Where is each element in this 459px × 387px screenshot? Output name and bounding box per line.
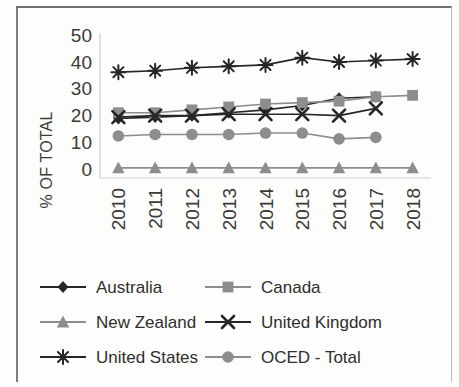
legend-label: OCED - Total [261,348,361,367]
line-chart: % OF TOTAL 50 40 30 20 10 0 201020112012… [0,0,459,387]
legend-item-united-kingdom[interactable]: United Kingdom [205,313,382,332]
data-point [222,59,236,73]
y-tick-label: 10 [71,132,92,153]
data-point [297,97,308,108]
legend-marker-square-icon [223,282,234,293]
data-point [260,99,271,110]
legend-label: Canada [261,278,321,297]
series-new-zealand [112,161,419,173]
data-point [185,61,199,75]
data-point [334,96,345,107]
data-point [260,127,272,139]
data-point [149,129,161,141]
x-tick-label: 2018 [403,188,424,230]
x-tick-label: 2015 [292,188,313,230]
chart-legend: AustraliaCanadaNew ZealandUnited Kingdom… [40,278,382,367]
legend-label: Australia [96,278,163,297]
legend-marker-circle-icon [222,351,234,363]
legend-label: United Kingdom [261,313,382,332]
y-tick-label: 20 [71,105,92,126]
data-point [186,129,198,141]
x-tick-label: 2012 [182,188,203,230]
y-tick-label: 50 [71,25,92,46]
x-tick-labels: 201020112012201320142015201620172018 [108,188,423,231]
series-united-states [111,51,419,80]
data-point [369,54,383,68]
x-tick-label: 2014 [256,188,277,231]
y-tick-label: 40 [71,52,92,73]
data-point [296,127,308,139]
x-tick-label: 2016 [329,188,350,230]
data-point [259,58,273,72]
x-tick-label: 2011 [145,188,166,229]
y-tick-labels: 50 40 30 20 10 0 [71,25,92,180]
y-tick-label: 30 [71,78,92,99]
legend-marker-asterisk-icon [56,350,70,364]
data-point [370,132,382,144]
data-point [148,64,162,78]
legend-label: New Zealand [96,313,196,332]
legend-marker-diamond-icon [58,281,69,293]
series-layer [111,51,419,174]
y-tick-label: 0 [81,159,92,180]
legend-item-canada[interactable]: Canada [205,278,321,297]
data-point [113,130,125,142]
data-point [295,51,309,65]
x-tick-label: 2010 [108,188,129,230]
data-point [407,90,418,101]
chart-page: % OF TOTAL 50 40 30 20 10 0 201020112012… [0,0,459,387]
y-axis-title: % OF TOTAL [38,111,55,208]
data-point [370,91,381,102]
x-tick-label: 2017 [366,188,387,230]
legend-item-australia[interactable]: Australia [40,278,163,297]
chart-svg: % OF TOTAL 50 40 30 20 10 0 201020112012… [0,0,459,387]
legend-label: United States [96,348,198,367]
legend-item-oced-total[interactable]: OCED - Total [205,348,361,367]
data-point [332,55,346,69]
series-oced-total [113,127,382,144]
data-point [370,102,382,114]
data-point [406,52,420,66]
legend-item-new-zealand[interactable]: New Zealand [40,313,196,332]
data-point [223,129,235,141]
data-point [111,65,125,79]
data-point [333,133,345,145]
x-tick-label: 2013 [219,188,240,230]
legend-item-united-states[interactable]: United States [40,348,198,367]
y-axis-title-text: % OF TOTAL [38,111,55,208]
